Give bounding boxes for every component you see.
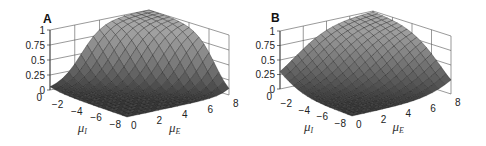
panel-a-surface-plot: 00.250.50.7510−2−4−6−802468μIμEA <box>26 10 239 136</box>
x-axis-label: μE <box>168 120 181 136</box>
y-tick-label: −4 <box>299 105 311 116</box>
y-tick-label: −6 <box>90 112 102 123</box>
x-tick-label: 4 <box>406 108 412 119</box>
surface-mesh <box>50 10 229 117</box>
z-tick-label: 1 <box>39 25 45 36</box>
z-tick-label: 0.5 <box>261 55 275 66</box>
figure: 00.250.50.7510−2−4−6−802468μIμEA 00.250.… <box>0 0 486 146</box>
y-tick-label: −8 <box>110 119 122 130</box>
y-tick-label: −2 <box>281 98 293 109</box>
x-tick-label: 6 <box>430 103 436 114</box>
x-tick-label: 2 <box>157 115 163 126</box>
x-tick-label: 0 <box>356 119 362 130</box>
x-tick-label: 4 <box>182 109 188 120</box>
z-tick-label: 0.25 <box>256 69 276 80</box>
y-axis-label: μI <box>77 120 88 136</box>
y-tick-label: −6 <box>317 111 329 122</box>
panel-b-surface-plot: 00.250.50.7510−2−4−6−802468μIμEB <box>256 11 461 135</box>
x-tick-label: 8 <box>455 97 461 108</box>
x-axis-label: μE <box>392 119 405 135</box>
y-tick-label: −2 <box>52 99 64 110</box>
x-tick-label: 0 <box>131 120 137 131</box>
z-tick-label: 0.25 <box>26 70 46 81</box>
panel-label: A <box>43 12 52 26</box>
x-tick-label: 8 <box>233 98 239 109</box>
y-tick-label: −8 <box>335 118 347 129</box>
z-tick-label: 1 <box>269 26 275 37</box>
y-tick-label: 0 <box>36 92 42 103</box>
x-tick-label: 2 <box>381 114 387 125</box>
x-tick-label: 6 <box>208 104 214 115</box>
z-tick-label: 0.75 <box>26 40 46 51</box>
panel-label: B <box>271 11 280 25</box>
y-tick-label: 0 <box>266 91 272 102</box>
z-tick-label: 0.75 <box>256 40 276 51</box>
y-tick-label: −4 <box>71 106 83 117</box>
y-axis-label: μI <box>303 119 314 135</box>
z-tick-label: 0.5 <box>31 55 45 66</box>
